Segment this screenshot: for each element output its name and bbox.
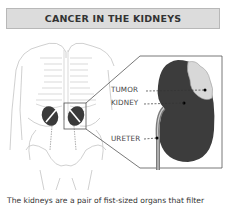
tumor-label: TUMOR xyxy=(111,85,138,94)
kidney-label: KIDNEY xyxy=(111,98,138,107)
kidney-detail-icon xyxy=(156,60,215,170)
body-outline-icon xyxy=(10,43,114,190)
kidney-pair-icon xyxy=(39,104,87,150)
ureter-label: URETER xyxy=(111,134,140,143)
title-banner: CANCER IN THE KIDNEYS xyxy=(6,8,220,29)
kidney-illustration: TUMOR KIDNEY URETER xyxy=(0,30,226,190)
page-title: CANCER IN THE KIDNEYS xyxy=(45,13,182,24)
caption-text: The kidneys are a pair of fist-sized org… xyxy=(7,196,204,205)
